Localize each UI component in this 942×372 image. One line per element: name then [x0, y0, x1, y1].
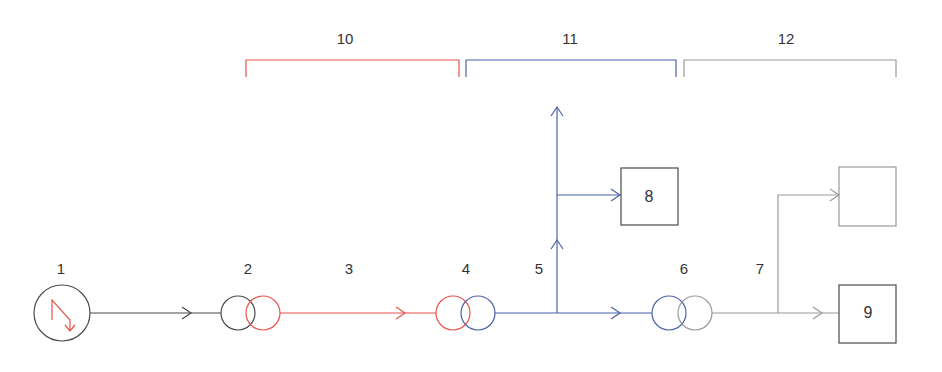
label-low-voltage-line: 7 — [756, 260, 764, 277]
section-label-12: 12 — [778, 30, 795, 47]
section-label-10: 10 — [337, 30, 354, 47]
label-consumer-box-8: 8 — [645, 188, 654, 206]
label-consumer-box-9: 9 — [864, 304, 873, 322]
step-up-transformer-icon — [221, 296, 280, 330]
generator-icon — [34, 285, 90, 341]
label-transmission-line: 3 — [345, 260, 353, 277]
label-generator: 1 — [57, 260, 65, 277]
bracket-section-12 — [684, 60, 896, 77]
low-voltage-branch — [778, 195, 839, 313]
label-step-up-transformer: 2 — [244, 260, 252, 277]
label-distribution-transformer: 6 — [680, 260, 688, 277]
power-distribution-diagram: 10 11 12 1 2 3 4 5 6 7 8 9 — [0, 0, 942, 372]
step-down-transformer-icon — [436, 296, 495, 330]
consumer-box-unlabeled — [839, 167, 896, 226]
label-distribution-line: 5 — [535, 260, 543, 277]
section-label-11: 11 — [562, 30, 578, 47]
bracket-section-10 — [246, 60, 459, 77]
label-step-down-transformer: 4 — [462, 260, 470, 277]
distribution-transformer-icon — [652, 296, 712, 330]
bracket-section-11 — [466, 60, 676, 77]
